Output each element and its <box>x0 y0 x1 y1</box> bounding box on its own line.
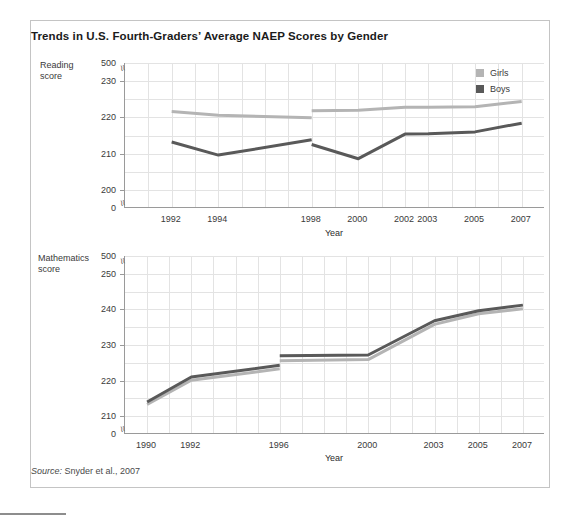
source-label: Source: <box>31 466 62 476</box>
x-tick-label: 2005 <box>455 440 501 450</box>
y-tick-label: 230 <box>76 340 116 350</box>
source-text: Snyder et al., 2007 <box>62 466 140 476</box>
y-tick-label: 240 <box>76 304 116 314</box>
y-tick-mark <box>120 345 124 346</box>
bottom-rule <box>0 513 66 515</box>
y-tick-label: 0 <box>76 429 116 439</box>
x-tick-label: 2007 <box>499 440 545 450</box>
y-tick-label: 500 <box>76 251 116 261</box>
chart-panel-mathematics: Mathematics score 0210220230240250500≈≈ … <box>0 0 583 470</box>
y-tick-mark <box>120 416 124 417</box>
x-tick-label: 2000 <box>344 440 390 450</box>
y-tick-mark <box>120 381 124 382</box>
x-tick-label: 1992 <box>167 440 213 450</box>
source-note: Source: Snyder et al., 2007 <box>31 466 140 476</box>
math-x-axis-title: Year <box>294 453 374 463</box>
series-line-girls <box>280 309 523 361</box>
y-tick-mark <box>120 309 124 310</box>
y-tick-mark <box>120 274 124 275</box>
x-tick-label: 1996 <box>256 440 302 450</box>
x-tick-label: 1990 <box>123 440 169 450</box>
math-plot-area <box>124 256 544 434</box>
y-tick-label: 210 <box>76 411 116 421</box>
x-tick-label: 2003 <box>411 440 457 450</box>
y-tick-label: 250 <box>76 269 116 279</box>
y-tick-label: 220 <box>76 376 116 386</box>
math-series-lines <box>125 256 545 434</box>
